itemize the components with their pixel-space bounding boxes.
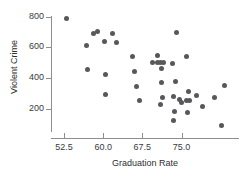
- data-point: [171, 94, 176, 99]
- y-tick-label: 400: [16, 73, 44, 82]
- data-point: [212, 95, 217, 100]
- y-tick-label-text: 200: [18, 104, 44, 113]
- x-tick-mark: [182, 133, 183, 139]
- data-point: [85, 67, 90, 72]
- plot-area: [51, 12, 239, 130]
- data-point: [222, 83, 227, 88]
- x-axis-title: Graduation Rate: [51, 158, 239, 168]
- data-point: [219, 123, 224, 128]
- y-tick-label-text: 800: [18, 12, 44, 21]
- x-tick-mark: [64, 133, 65, 139]
- x-tick-label: 60.0: [86, 142, 120, 152]
- x-tick-mark: [103, 133, 104, 139]
- data-point: [103, 92, 108, 97]
- y-tick-label: 800: [16, 12, 44, 21]
- data-point: [103, 72, 108, 77]
- y-tick-label-text: 600: [18, 42, 44, 51]
- data-point: [64, 16, 69, 21]
- scatter-plot-figure: 200400600800 Violent Crime 52.560.067.57…: [0, 0, 248, 179]
- data-point: [174, 30, 179, 35]
- data-point: [159, 66, 164, 71]
- data-point: [134, 84, 139, 89]
- data-point: [171, 118, 176, 123]
- data-point: [187, 98, 192, 103]
- data-point: [155, 53, 160, 58]
- data-point: [110, 31, 115, 36]
- data-point: [186, 89, 191, 94]
- x-tick-mark: [142, 133, 143, 139]
- y-tick-label-text: 400: [18, 73, 44, 82]
- data-point: [130, 54, 135, 59]
- x-tick-label: 75.0: [165, 142, 199, 152]
- y-axis-title: Violent Crime: [9, 27, 19, 107]
- data-point: [161, 60, 166, 65]
- data-point: [185, 110, 190, 115]
- data-point: [170, 61, 175, 66]
- data-point: [84, 43, 89, 48]
- data-point: [159, 80, 164, 85]
- data-point: [158, 102, 163, 107]
- data-point: [137, 98, 142, 103]
- data-point: [184, 54, 189, 59]
- data-point: [194, 93, 199, 98]
- x-axis-line: [51, 138, 239, 139]
- data-point: [160, 95, 165, 100]
- data-point: [173, 79, 178, 84]
- y-tick-label: 600: [16, 42, 44, 51]
- data-point: [95, 29, 100, 34]
- data-point: [172, 109, 177, 114]
- data-point: [102, 39, 107, 44]
- y-tick-label: 200: [16, 104, 44, 113]
- x-tick-label: 52.5: [47, 142, 81, 152]
- data-point: [200, 104, 205, 109]
- x-tick-label: 67.5: [125, 142, 159, 152]
- data-point: [114, 40, 119, 45]
- data-point: [132, 69, 137, 74]
